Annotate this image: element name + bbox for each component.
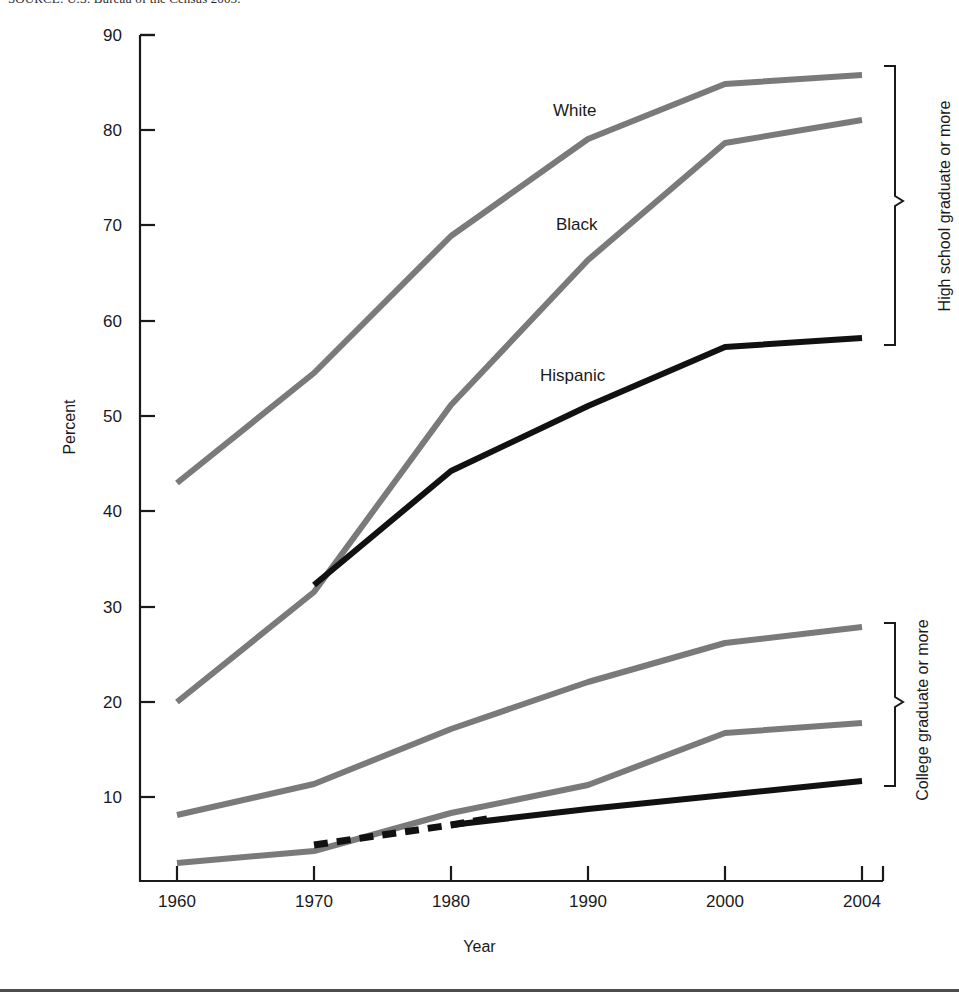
- xtick-label-1980: 1980: [411, 893, 491, 910]
- ytick-label-80: 80: [66, 122, 122, 139]
- x-axis-title: Year: [0, 938, 959, 956]
- page-bottom-rule: [0, 989, 959, 992]
- ytick-label-90: 90: [66, 27, 122, 44]
- series-label-hispanic: Hispanic: [540, 367, 605, 384]
- xtick-label-1970: 1970: [274, 893, 354, 910]
- axis-lines: [139, 35, 883, 881]
- source-note: SOURCE: U.S. Bureau of the Census 2005.: [8, 0, 240, 7]
- ytick-label-20: 20: [66, 694, 122, 711]
- brace-label-college: College graduate or more: [914, 575, 932, 845]
- brace-highschool: [884, 66, 903, 345]
- chart-figure: SOURCE: U.S. Bureau of the Census 2005.: [0, 0, 959, 997]
- x-axis-ticks: [177, 866, 862, 881]
- series-label-white: White: [553, 102, 596, 119]
- xtick-label-2004: 2004: [822, 893, 902, 910]
- line-chart-canvas: [0, 0, 959, 997]
- xtick-label-1990: 1990: [548, 893, 628, 910]
- ytick-label-60: 60: [66, 313, 122, 330]
- brace-label-highschool: High school graduate or more: [936, 56, 954, 356]
- brace-college: [884, 623, 903, 786]
- series-line-white-college: [177, 627, 862, 815]
- xtick-label-1960: 1960: [137, 893, 217, 910]
- ytick-label-40: 40: [66, 503, 122, 520]
- xtick-label-2000: 2000: [685, 893, 765, 910]
- ytick-label-10: 10: [66, 789, 122, 806]
- series-label-black: Black: [556, 216, 598, 233]
- series-line-black-highschool: [177, 120, 862, 702]
- y-axis-ticks: [140, 35, 155, 797]
- y-axis-title: Percent: [61, 367, 79, 487]
- ytick-label-30: 30: [66, 599, 122, 616]
- ytick-label-70: 70: [66, 217, 122, 234]
